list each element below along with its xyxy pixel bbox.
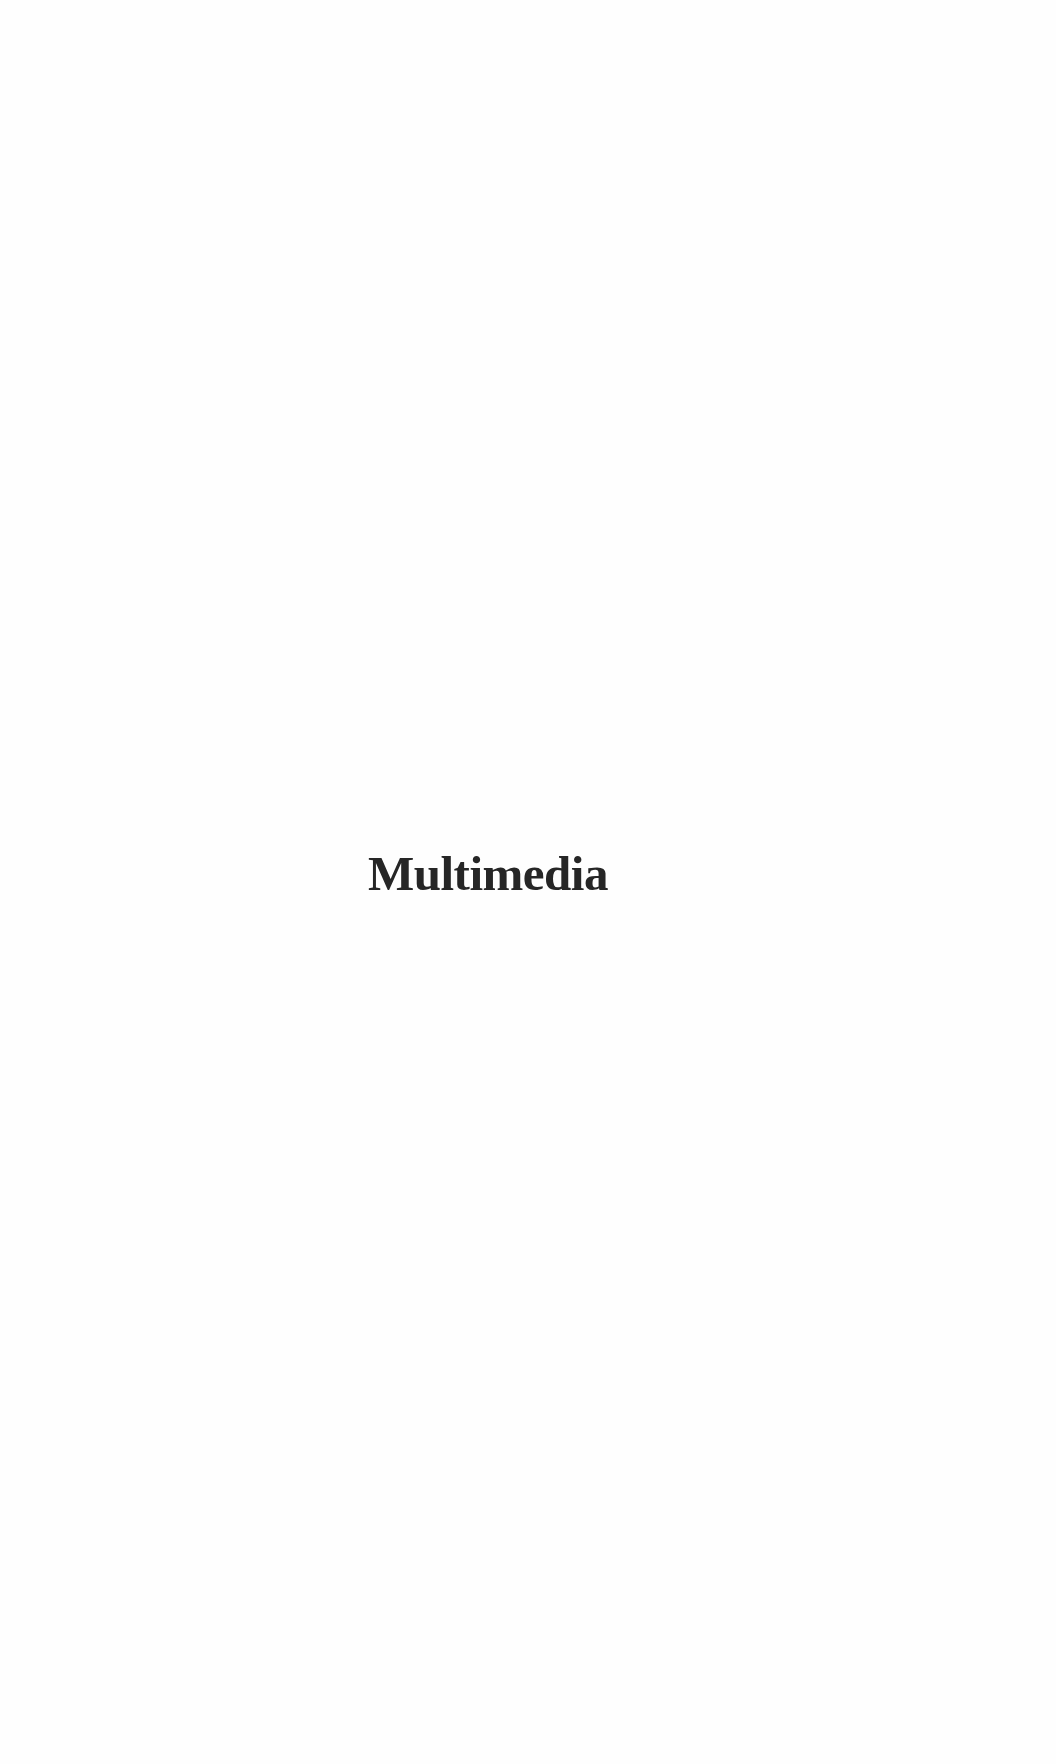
document-page: Multimedia [0,0,1056,1764]
section-title: Multimedia [368,846,608,902]
